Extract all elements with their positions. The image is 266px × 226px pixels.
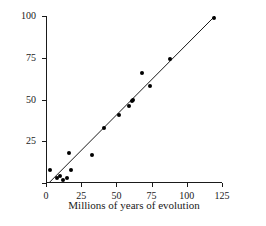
data-point: [48, 168, 52, 172]
x-axis-title: Millions of years of evolution: [46, 200, 222, 211]
x-tick: 75: [152, 183, 153, 187]
data-point: [117, 113, 121, 117]
plot-area: 255075100 0255075100125: [46, 16, 222, 183]
x-tick: 100: [187, 183, 188, 187]
y-tick-label: 50: [26, 95, 36, 105]
x-tick: 125: [222, 183, 223, 187]
data-point: [212, 16, 216, 20]
data-point: [102, 126, 106, 130]
x-tick: 25: [81, 183, 82, 187]
data-point: [67, 151, 71, 155]
y-tick-label: 25: [26, 136, 36, 146]
scatter-plot-figure: 255075100 0255075100125 Millions of year…: [0, 0, 266, 226]
x-tick: 0: [46, 183, 47, 187]
data-point: [131, 98, 135, 102]
data-point: [140, 71, 144, 75]
y-tick-label: 100: [21, 11, 36, 21]
x-tick: 50: [116, 183, 117, 187]
y-tick-label: 75: [26, 53, 36, 63]
